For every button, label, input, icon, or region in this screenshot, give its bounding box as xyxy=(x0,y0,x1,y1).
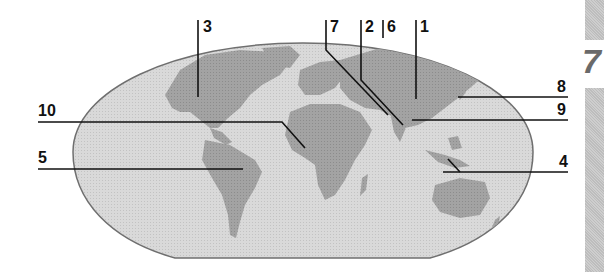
side-tab-number: 7 xyxy=(582,44,601,78)
label-2: 2 xyxy=(365,19,374,35)
label-5: 5 xyxy=(38,150,47,166)
label-4: 4 xyxy=(559,154,568,170)
side-tab-top xyxy=(585,0,604,40)
label-3: 3 xyxy=(203,19,212,35)
label-7: 7 xyxy=(330,19,339,35)
label-8: 8 xyxy=(557,79,566,95)
label-9: 9 xyxy=(557,102,566,118)
label-10: 10 xyxy=(38,103,56,119)
landmass-australia xyxy=(432,178,490,218)
side-tab-bottom xyxy=(585,88,604,272)
label-6: 6 xyxy=(387,19,396,35)
label-1: 1 xyxy=(420,19,429,35)
world-map xyxy=(0,0,604,272)
